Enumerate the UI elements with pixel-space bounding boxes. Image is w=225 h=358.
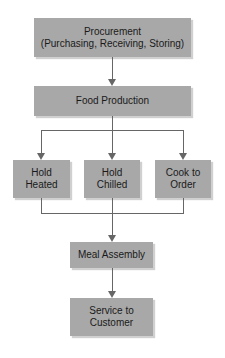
connector-line [112, 213, 113, 235]
arrow-down-icon [37, 153, 45, 160]
node-label: Procurement (Purchasing, Receiving, Stor… [41, 26, 184, 50]
connector-line [112, 198, 113, 213]
node-label: Food Production [76, 95, 149, 107]
connector-line [41, 198, 42, 213]
node-label: Cook to Order [166, 167, 200, 191]
connector-line [112, 268, 113, 291]
connector-line [183, 198, 184, 213]
node-label: Meal Assembly [78, 249, 145, 261]
connector-line [183, 130, 184, 153]
arrow-down-icon [108, 291, 116, 298]
node-service-to-customer: Service to Customer [70, 298, 153, 336]
connector-line [112, 130, 113, 153]
node-cook-to-order: Cook to Order [155, 160, 211, 198]
node-procurement: Procurement (Purchasing, Receiving, Stor… [34, 18, 191, 57]
arrow-down-icon [179, 153, 187, 160]
node-label: Hold Chilled [97, 167, 128, 191]
node-hold-heated: Hold Heated [13, 160, 70, 198]
node-label: Hold Heated [25, 167, 57, 191]
connector-line [112, 116, 113, 130]
arrow-down-icon [108, 153, 116, 160]
arrow-down-icon [108, 235, 116, 242]
node-label: Service to Customer [89, 305, 133, 329]
node-hold-chilled: Hold Chilled [84, 160, 140, 198]
connector-line [41, 130, 42, 153]
node-food-production: Food Production [34, 86, 191, 116]
node-meal-assembly: Meal Assembly [70, 242, 153, 268]
connector-line [112, 57, 113, 79]
arrow-down-icon [108, 79, 116, 86]
